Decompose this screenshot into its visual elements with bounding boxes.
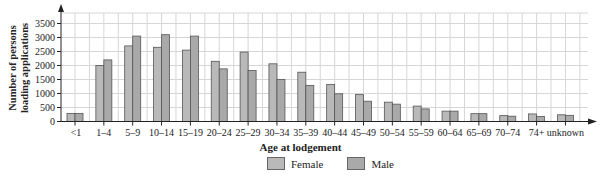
x-tick-label: unknown [547,127,584,138]
bar-female [211,61,219,121]
bar-female [529,114,537,122]
bar-male [364,101,372,121]
bar-male [219,69,227,122]
bar-male [508,116,516,121]
bar-female [384,102,392,121]
bar-chart: 0500100015002000250030003500 <11–45–910–… [0,0,601,140]
y-tick-label: 1500 [35,74,55,85]
x-tick-label: 40–44 [322,127,347,138]
bar-female [96,66,104,122]
y-axis-ticks: 0500100015002000250030003500 [35,18,61,127]
y-tick-label: 3500 [35,18,55,29]
y-tick-label: 0 [50,116,55,127]
x-tick-label: 20–24 [207,127,232,138]
x-tick-label: 50–54 [380,127,405,138]
bar-female [154,47,162,121]
bar-female [327,85,335,122]
bar-female [67,113,75,121]
x-tick-label: 74+ [529,127,545,138]
y-axis-label-line-2: loading applications [19,23,31,113]
x-tick-label: <1 [71,127,82,138]
x-tick-label: 60–64 [438,127,463,138]
bar-male [75,113,83,121]
y-axis-label-line-1: Number of persons [7,23,19,113]
y-tick-label: 2000 [35,60,55,71]
bar-female [500,116,508,122]
bar-male [190,36,198,121]
bar-male [162,35,170,122]
bar-female [298,72,306,121]
x-tick-label: 1–4 [96,127,111,138]
bar-male [248,71,256,122]
bar-male [479,114,487,122]
y-tick-label: 500 [40,102,55,113]
bar-male [565,115,573,121]
x-tick-label: 30–34 [264,127,289,138]
x-tick-label: 55–59 [409,127,434,138]
x-tick-label: 25–29 [236,127,261,138]
bar-female [356,95,364,122]
bar-female [125,46,133,122]
bar-male [335,94,343,122]
x-tick-label: 15–19 [178,127,203,138]
x-tick-label: 70–74 [495,127,520,138]
bar-male [537,116,545,121]
x-axis-label: Age at lodgement [0,141,601,153]
bar-female [471,114,479,122]
bar-male [133,36,141,121]
bar-male [104,60,112,122]
bar-male [277,80,285,122]
x-tick-label: 10–14 [149,127,174,138]
bar-male [421,109,429,122]
x-tick-label: 5–9 [125,127,140,138]
legend-swatch-male [347,157,365,170]
x-tick-label: 35–39 [293,127,318,138]
legend: Female Male [267,157,418,170]
bar-female [557,115,565,122]
bar-male [392,104,400,121]
bar-female [182,50,190,121]
legend-swatch-female [267,157,285,170]
bar-male [306,85,314,121]
x-tick-label: 45–49 [351,127,376,138]
x-axis-ticks: <11–45–910–1415–1920–2425–2930–3435–3940… [71,122,584,139]
y-tick-label: 1000 [35,88,55,99]
bar-female [269,64,277,122]
legend-label-female: Female [291,158,323,170]
bar-male [450,111,458,121]
legend-item-male: Male [347,157,394,170]
y-axis-label: Number of personsloading applications [2,8,36,128]
x-tick-label: 65–69 [466,127,491,138]
bar-female [413,106,421,121]
legend-item-female: Female [267,157,323,170]
bar-female [442,111,450,121]
y-tick-label: 3000 [35,32,55,43]
bar-female [240,52,248,121]
y-tick-label: 2500 [35,46,55,57]
legend-label-male: Male [371,158,394,170]
